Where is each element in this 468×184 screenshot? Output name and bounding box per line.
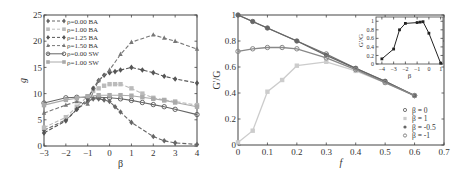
square-marker-icon xyxy=(295,64,299,68)
y-tick-label: 0.6 xyxy=(367,35,375,41)
square-marker-icon xyxy=(96,86,100,90)
star-marker-icon xyxy=(295,39,299,43)
y-tick-label: 0 xyxy=(232,140,237,150)
x-axis-label: β xyxy=(408,72,412,80)
star-marker-icon xyxy=(251,19,255,23)
square-marker-icon xyxy=(151,97,155,101)
square-marker-icon xyxy=(265,90,269,94)
y-tick-label: 0.2 xyxy=(225,114,236,124)
y-tick-label: 0.4 xyxy=(225,88,237,98)
plot-frame xyxy=(376,17,443,64)
y-tick-label: 10 xyxy=(33,89,43,99)
square-marker-icon xyxy=(439,62,442,65)
square-marker-icon xyxy=(380,57,383,60)
square-marker-icon xyxy=(46,27,50,31)
legend-label: ρ=1.50 BA xyxy=(67,42,98,50)
y-tick-label: 5 xyxy=(38,115,43,125)
square-marker-icon xyxy=(64,98,68,102)
legend-label: ρ=1.25 BA xyxy=(67,34,98,42)
square-marker-icon xyxy=(173,100,177,104)
x-tick-label: −1 xyxy=(414,66,420,72)
square-marker-icon xyxy=(62,27,66,31)
square-marker-icon xyxy=(96,93,100,97)
square-marker-icon xyxy=(129,93,133,97)
x-tick-label: 0.2 xyxy=(291,147,302,157)
square-marker-icon xyxy=(102,84,106,88)
square-marker-icon xyxy=(86,94,90,98)
star-marker-icon xyxy=(265,26,269,30)
square-marker-icon xyxy=(427,32,430,35)
legend-label: ρ=1.00 BA xyxy=(67,26,98,34)
x-tick-label: −2 xyxy=(61,148,71,158)
x-tick-label: 0.7 xyxy=(438,147,450,157)
square-marker-icon xyxy=(113,82,117,86)
x-tick-label: 0 xyxy=(236,147,241,157)
square-marker-icon xyxy=(392,48,395,51)
y-tick-label: 20 xyxy=(33,36,43,46)
right-chart-ratio-vs-f: 00.10.20.30.40.50.60.700.20.40.60.81fG'/… xyxy=(211,10,450,168)
x-tick-label: 3 xyxy=(173,148,178,158)
y-tick-label: 0.6 xyxy=(225,62,237,72)
square-marker-icon xyxy=(42,125,46,129)
square-marker-icon xyxy=(129,86,133,90)
y-tick-label: 0 xyxy=(371,61,374,67)
x-tick-label: 4 xyxy=(195,148,200,158)
y-tick-label: 25 xyxy=(33,10,43,20)
square-marker-icon xyxy=(42,103,46,107)
legend-label: ρ=1.00 SW xyxy=(67,59,99,67)
y-tick-label: 0.8 xyxy=(367,27,375,33)
square-marker-icon xyxy=(419,21,422,24)
x-tick-label: 0.3 xyxy=(321,147,333,157)
square-marker-icon xyxy=(62,60,66,64)
x-tick-label: 0.1 xyxy=(262,147,273,157)
square-marker-icon xyxy=(118,82,122,86)
square-marker-icon xyxy=(280,78,284,82)
legend-label: ρ=0.00 SW xyxy=(67,50,99,58)
square-marker-icon xyxy=(422,20,425,23)
x-tick-label: 0.4 xyxy=(350,147,362,157)
x-tick-label: 0 xyxy=(107,148,112,158)
square-marker-icon xyxy=(416,21,419,24)
star-marker-icon xyxy=(236,13,240,17)
x-tick-label: 0.5 xyxy=(380,147,392,157)
star-marker-icon xyxy=(403,125,406,128)
square-marker-icon xyxy=(251,129,255,133)
x-tick-label: 2 xyxy=(151,148,156,158)
square-marker-icon xyxy=(107,93,111,97)
x-tick-label: −3 xyxy=(390,66,396,72)
x-axis-label: f xyxy=(340,157,344,168)
square-marker-icon xyxy=(118,93,122,97)
square-marker-icon xyxy=(107,82,111,86)
square-marker-icon xyxy=(162,98,166,102)
square-marker-icon xyxy=(46,60,50,64)
legend-label: ρ=0.00 BA xyxy=(67,18,98,26)
square-marker-icon xyxy=(75,96,79,100)
square-marker-icon xyxy=(403,117,406,120)
x-tick-label: −4 xyxy=(379,66,385,72)
y-axis-label: g xyxy=(17,78,28,83)
square-marker-icon xyxy=(195,105,199,109)
y-tick-label: 0.2 xyxy=(367,53,375,59)
x-tick-label: 0 xyxy=(427,66,430,72)
left-chart-g-vs-beta: −3−2−1012340510152025βgρ=0.00 BAρ=1.00 B… xyxy=(17,10,200,169)
y-tick-label: 0 xyxy=(38,141,43,151)
y-tick-label: 0.8 xyxy=(225,36,237,46)
y-tick-label: 15 xyxy=(33,63,43,73)
x-tick-label: 1 xyxy=(129,148,134,158)
square-marker-icon xyxy=(140,95,144,99)
y-tick-label: 1 xyxy=(371,18,374,24)
x-tick-label: 1 xyxy=(439,66,442,72)
y-tick-label: 0.4 xyxy=(367,44,375,50)
y-axis-label: G'/G xyxy=(357,34,365,47)
square-marker-icon xyxy=(398,28,401,31)
x-axis-label: β xyxy=(118,158,123,169)
legend-label: β = -1 xyxy=(412,131,430,140)
square-marker-icon xyxy=(404,22,407,25)
y-axis-label: G'/G xyxy=(211,70,222,89)
x-tick-label: 0.6 xyxy=(409,147,421,157)
figure: −3−2−1012340510152025βgρ=0.00 BAρ=1.00 B… xyxy=(0,0,468,184)
x-tick-label: −1 xyxy=(83,148,93,158)
square-marker-icon xyxy=(236,140,240,144)
